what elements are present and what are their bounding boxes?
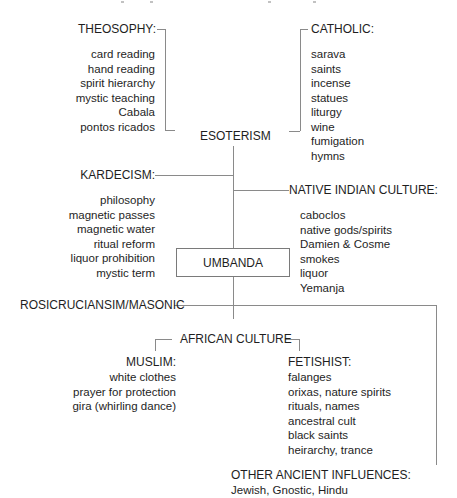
native-indian-list: caboclos native gods/spirits Damien & Co… xyxy=(300,208,392,295)
theosophy-bracket-vertical xyxy=(165,29,166,130)
umbanda-label: UMBANDA xyxy=(203,256,263,270)
list-item: statues xyxy=(311,91,364,106)
muslim-heading: MUSLIM: xyxy=(126,355,176,370)
list-item: mystic term xyxy=(69,266,155,281)
list-item: Cabala xyxy=(76,105,155,120)
list-item: liturgy xyxy=(311,105,364,120)
list-item: ancestral cult xyxy=(288,414,391,429)
catholic-list: sarava saints incense statues liturgy wi… xyxy=(311,47,364,163)
main-trunk-lower xyxy=(233,276,234,319)
fetishist-list: falanges orixas, nature spirits rituals,… xyxy=(288,370,391,457)
other-influences-heading: OTHER ANCIENT INFLUENCES: xyxy=(231,468,411,483)
list-item: caboclos xyxy=(300,208,392,223)
list-item: Damien & Cosme xyxy=(300,237,392,252)
list-item: sarava xyxy=(311,47,364,62)
list-item: black saints xyxy=(288,428,391,443)
other-influences-items: Jewish, Gnostic, Hindu xyxy=(231,483,348,498)
theosophy-bracket-bottom xyxy=(165,130,175,131)
list-item: hand reading xyxy=(76,62,155,77)
native-indian-connector xyxy=(233,190,289,191)
theosophy-list: card reading hand reading spirit hierarc… xyxy=(76,47,155,134)
muslim-list: white clothes prayer for protection gira… xyxy=(72,370,176,414)
native-indian-heading: NATIVE INDIAN CULTURE: xyxy=(289,183,438,198)
list-item: pontos ricados xyxy=(76,120,155,135)
theosophy-bracket-top xyxy=(157,29,165,30)
list-item: magnetic water xyxy=(69,222,155,237)
kardecism-heading: KARDECISM: xyxy=(80,168,155,183)
african-bracket-left xyxy=(155,339,172,340)
african-culture-heading: AFRICAN CULTURE xyxy=(180,332,292,347)
list-item: Yemanja xyxy=(300,281,392,296)
clipped-text-fragment xyxy=(150,1,153,3)
list-item: native gods/spirits xyxy=(300,223,392,238)
list-item: incense xyxy=(311,76,364,91)
list-item: card reading xyxy=(76,47,155,62)
list-item: mystic teaching xyxy=(76,91,155,106)
list-item: wine xyxy=(311,120,364,135)
list-item: hymns xyxy=(311,149,364,164)
list-item: smokes xyxy=(300,252,392,267)
catholic-heading: CATHOLIC: xyxy=(311,22,374,37)
umbanda-center-box: UMBANDA xyxy=(176,248,290,277)
outer-right-vertical xyxy=(436,305,437,465)
african-bracket-right-drop xyxy=(299,339,300,351)
kardecism-connector xyxy=(155,175,233,176)
list-item: prayer for protection xyxy=(72,385,176,400)
list-item: heirarchy, trance xyxy=(288,443,391,458)
list-item: liquor xyxy=(300,266,392,281)
main-trunk-upper xyxy=(233,146,234,248)
list-item: falanges xyxy=(288,370,391,385)
list-item: spirit hierarchy xyxy=(76,76,155,91)
list-item: rituals, names xyxy=(288,399,391,414)
list-item: fumigation xyxy=(311,134,364,149)
list-item: magnetic passes xyxy=(69,208,155,223)
list-item: gira (whirling dance) xyxy=(72,399,176,414)
clipped-text-fragment xyxy=(268,1,271,3)
african-bracket-left-drop xyxy=(155,339,156,351)
kardecism-list: philosophy magnetic passes magnetic wate… xyxy=(69,193,155,280)
list-item: saints xyxy=(311,62,364,77)
list-item: liquor prohibition xyxy=(69,251,155,266)
theosophy-heading: THEOSOPHY: xyxy=(78,22,156,37)
list-item: philosophy xyxy=(69,193,155,208)
list-item: white clothes xyxy=(72,370,176,385)
esoterism-label: ESOTERISM xyxy=(200,129,271,144)
list-item: orixas, nature spirits xyxy=(288,385,391,400)
rosicrucian-connector xyxy=(174,305,436,306)
clipped-text-fragment xyxy=(121,1,124,3)
catholic-bracket-bottom xyxy=(289,131,300,132)
clipped-text-fragment xyxy=(313,1,316,3)
catholic-bracket-top xyxy=(300,29,308,30)
catholic-bracket-vertical xyxy=(300,29,301,131)
list-item: ritual reform xyxy=(69,237,155,252)
fetishist-heading: FETISHIST: xyxy=(288,355,351,370)
rosicrucian-label: ROSICRUCIANSIM/MASONIC xyxy=(20,298,185,313)
